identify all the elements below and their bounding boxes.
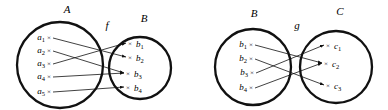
set-label-b2: B	[251, 7, 258, 19]
element-b2-domain: b2	[239, 53, 247, 64]
point-c2: ×	[324, 60, 328, 68]
point-b4-domain: ×	[249, 84, 253, 92]
set-label-c: C	[336, 5, 344, 17]
point-a2: ×	[47, 47, 51, 55]
arrow-b1-c2	[255, 45, 322, 63]
point-b2-domain: ×	[249, 55, 253, 63]
element-b4: b4	[134, 83, 143, 94]
f-arrows	[53, 38, 126, 92]
arrow-a3-b1	[53, 43, 126, 64]
element-a2: a2	[37, 45, 45, 56]
point-a1: ×	[47, 34, 51, 42]
element-c3: c3	[334, 81, 341, 92]
point-a4: ×	[47, 73, 51, 81]
set-b2-elements: b1 × b2 × b3 × b4 ×	[239, 39, 254, 93]
arrow-a4-b3	[53, 73, 124, 77]
element-b4-domain: b4	[239, 82, 248, 93]
point-a5: ×	[47, 88, 51, 96]
g-arrows	[255, 45, 324, 88]
element-a5: a5	[37, 86, 45, 97]
map-label-g: g	[294, 19, 300, 31]
arrow-b4-c2	[255, 63, 322, 88]
f-diagram-group: A B f a1 × a2 × a3 × a4 × a5 × × b1 ×	[17, 3, 171, 108]
element-c2: c2	[332, 59, 339, 70]
element-b1-domain: b1	[239, 39, 247, 50]
map-label-f: f	[105, 19, 110, 31]
point-a3: ×	[47, 60, 51, 68]
set-c-elements: × c1 × c2 × c3	[324, 41, 341, 92]
point-c1: ×	[326, 42, 330, 50]
mapping-diagram-svg: A B f a1 × a2 × a3 × a4 × a5 × × b1 ×	[0, 0, 388, 110]
element-b3-domain: b3	[240, 67, 248, 78]
element-b3: b3	[134, 69, 142, 80]
point-c3: ×	[326, 82, 330, 90]
point-b2: ×	[128, 54, 132, 62]
element-c1: c1	[334, 41, 341, 52]
g-diagram-group: B C g b1 × b2 × b3 × b4 × × c1 × c2 × c3	[215, 5, 372, 105]
set-b-elements: × b1 × b2 × b3 × b4	[126, 39, 144, 94]
point-b3-domain: ×	[250, 69, 254, 77]
point-b3: ×	[126, 70, 130, 78]
element-a4: a4	[37, 71, 46, 82]
point-b1: ×	[128, 40, 132, 48]
point-b1-domain: ×	[249, 41, 253, 49]
figure-canvas: A B f a1 × a2 × a3 × a4 × a5 × × b1 ×	[0, 0, 388, 110]
set-label-a: A	[63, 3, 71, 15]
set-circle-a	[17, 22, 103, 108]
element-a1: a1	[37, 32, 45, 43]
arrow-a5-b4	[53, 87, 124, 92]
set-a-elements: a1 × a2 × a3 × a4 × a5 ×	[37, 32, 51, 97]
element-b2: b2	[136, 53, 144, 64]
element-a3: a3	[37, 58, 45, 69]
set-label-b: B	[141, 12, 148, 24]
set-circle-b2	[215, 29, 291, 105]
element-b1: b1	[136, 39, 144, 50]
point-b4: ×	[126, 84, 130, 92]
